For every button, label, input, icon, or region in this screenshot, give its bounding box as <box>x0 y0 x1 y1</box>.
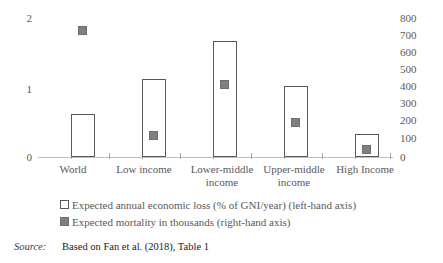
marker-upper-middle-income <box>291 118 300 127</box>
bar-world <box>71 114 95 157</box>
legend-item-economic-loss: Expected annual economic loss (% of GNI/… <box>60 196 390 213</box>
x-tick <box>180 153 181 159</box>
right-axis-tick-700: 700 <box>400 30 430 41</box>
source-label: Source: <box>14 241 62 252</box>
source-text: Based on Fan et al. (2018), Table 1 <box>62 241 209 252</box>
x-axis-line <box>38 157 393 158</box>
right-axis-tick-500: 500 <box>400 64 430 75</box>
source-note: Source: Based on Fan et al. (2018), Tabl… <box>14 241 209 252</box>
chart-figure: 2 1 0 800 700 600 500 400 300 200 100 0 <box>0 0 443 263</box>
bar-lower-middle-income <box>213 41 237 157</box>
right-axis-tick-400: 400 <box>400 81 430 92</box>
x-tick <box>251 153 252 159</box>
right-axis-tick-0: 0 <box>400 152 430 163</box>
left-axis-tick-0: 0 <box>14 152 32 163</box>
legend-label-mortality: Expected mortality in thousands (right-h… <box>72 216 290 228</box>
x-label-upper-middle-income: Upper-middle income <box>257 163 331 189</box>
open-square-icon <box>60 200 69 209</box>
marker-low-income <box>149 131 158 140</box>
filled-square-icon <box>60 217 69 226</box>
left-axis-tick-1: 1 <box>14 84 32 95</box>
x-tick <box>390 153 391 159</box>
x-tick <box>109 153 110 159</box>
x-label-high-income: High Income <box>331 163 399 176</box>
marker-high-income <box>362 145 371 154</box>
right-axis-tick-800: 800 <box>400 13 430 24</box>
right-axis-tick-100: 100 <box>400 133 430 144</box>
x-label-world: World <box>43 163 103 176</box>
plot-area <box>38 12 393 159</box>
bar-low-income <box>142 79 166 157</box>
marker-world <box>78 26 87 35</box>
legend-label-economic-loss: Expected annual economic loss (% of GNI/… <box>72 199 356 211</box>
right-axis-tick-300: 300 <box>400 98 430 109</box>
x-label-low-income: Low income <box>107 163 181 176</box>
chart-legend: Expected annual economic loss (% of GNI/… <box>60 196 390 230</box>
marker-lower-middle-income <box>220 80 229 89</box>
left-axis-tick-2: 2 <box>14 13 32 24</box>
legend-item-mortality: Expected mortality in thousands (right-h… <box>60 213 390 230</box>
right-axis-tick-200: 200 <box>400 115 430 126</box>
x-label-lower-middle-income: Lower-middle income <box>185 163 259 189</box>
x-tick <box>322 153 323 159</box>
right-axis-tick-600: 600 <box>400 47 430 58</box>
